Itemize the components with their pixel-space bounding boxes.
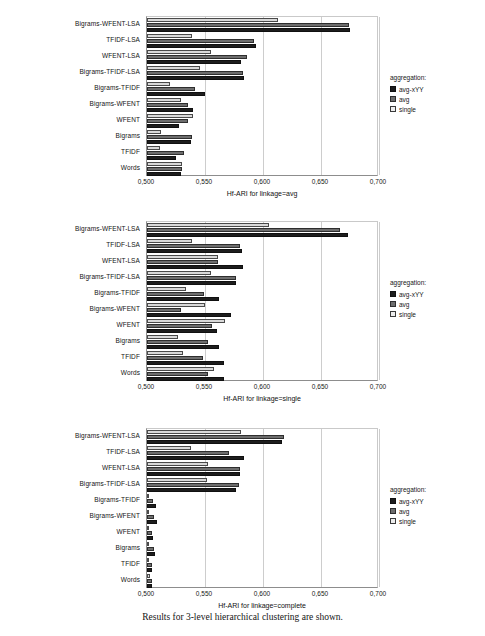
bar-group	[147, 541, 377, 557]
legend-swatch-icon	[390, 86, 396, 92]
bar-avg-xyy	[147, 249, 242, 253]
bar-avg	[147, 135, 192, 139]
bar-avg-xyy	[147, 76, 244, 80]
bar-group	[147, 17, 377, 33]
bar-avg-xyy	[147, 92, 205, 96]
category-label: Bigrams-WFENT-LSA	[6, 428, 144, 444]
plot-area	[146, 221, 378, 381]
bar-avg-xyy	[147, 361, 224, 365]
x-axis-tick: 0,700	[370, 383, 386, 390]
bar-group	[147, 222, 377, 238]
legend-item-single[interactable]: single	[390, 309, 482, 319]
category-label: WFENT-LSA	[6, 253, 144, 269]
bar-group	[147, 429, 377, 445]
category-label: Bigrams-WFENT-LSA	[6, 16, 144, 32]
legend: aggregation:avg-xYYavgsingle	[390, 486, 482, 526]
bar-single	[147, 494, 149, 498]
bar-avg	[147, 276, 236, 280]
figure-root: Bigrams-WFENT-LSATFIDF-LSAWFENT-LSABigra…	[0, 0, 485, 636]
bar-group	[147, 461, 377, 477]
legend-item-label: single	[399, 106, 416, 113]
category-label: TFIDF	[6, 144, 144, 160]
legend-item-avg-xyy[interactable]: avg-xYY	[390, 496, 482, 506]
x-axis-tick: 0,550	[196, 178, 212, 185]
bar-avg	[147, 87, 195, 91]
bar-avg-xyy	[147, 568, 152, 572]
bar-group	[147, 97, 377, 113]
legend-item-label: avg	[399, 508, 409, 515]
bar-single	[147, 574, 150, 578]
legend-item-avg[interactable]: avg	[390, 94, 482, 104]
legend-item-avg[interactable]: avg	[390, 506, 482, 516]
bar-group	[147, 493, 377, 509]
bar-avg	[147, 308, 181, 312]
legend-swatch-icon	[390, 498, 396, 504]
bar-avg	[147, 260, 218, 264]
bar-avg	[147, 340, 208, 344]
bar-avg	[147, 356, 203, 360]
bar-single	[147, 255, 218, 259]
bar-avg-xyy	[147, 28, 350, 32]
gridline	[379, 429, 380, 587]
bar-group	[147, 270, 377, 286]
category-label: Bigrams-TFIDF-LSA	[6, 269, 144, 285]
bar-single	[147, 430, 241, 434]
bar-single	[147, 98, 181, 102]
legend-item-avg-xyy[interactable]: avg-xYY	[390, 84, 482, 94]
category-label: TFIDF-LSA	[6, 32, 144, 48]
bar-avg	[147, 563, 152, 567]
bar-avg	[147, 435, 284, 439]
legend-item-avg[interactable]: avg	[390, 299, 482, 309]
bar-avg	[147, 292, 204, 296]
category-axis-labels: Bigrams-WFENT-LSATFIDF-LSAWFENT-LSABigra…	[6, 428, 144, 588]
bar-avg	[147, 515, 154, 519]
category-axis-labels: Bigrams-WFENT-LSATFIDF-LSAWFENT-LSABigra…	[6, 221, 144, 381]
bar-avg	[147, 103, 188, 107]
bar-avg	[147, 23, 349, 27]
legend-item-avg-xyy[interactable]: avg-xYY	[390, 289, 482, 299]
category-label: Bigrams-TFIDF-LSA	[6, 476, 144, 492]
bar-avg-xyy	[147, 552, 155, 556]
x-axis-title: Hf-ARI for linkage=complete	[146, 602, 378, 609]
bar-group	[147, 445, 377, 461]
category-label: Words	[6, 572, 144, 588]
bar-single	[147, 82, 170, 86]
legend-title: aggregation:	[390, 279, 482, 286]
bar-avg	[147, 244, 240, 248]
category-label: Bigrams-TFIDF	[6, 285, 144, 301]
bar-avg	[147, 71, 243, 75]
bar-single	[147, 351, 183, 355]
x-axis-tick: 0,550	[196, 590, 212, 597]
legend-swatch-icon	[390, 301, 396, 307]
category-label: Bigrams-WFENT	[6, 96, 144, 112]
legend-item-single[interactable]: single	[390, 104, 482, 114]
x-axis-tick: 0,650	[312, 590, 328, 597]
x-axis: 0,5000,5500,6000,6500,700	[146, 177, 378, 191]
bar-avg	[147, 167, 182, 171]
x-axis-tick: 0,700	[370, 590, 386, 597]
chart-panel-complete: Bigrams-WFENT-LSATFIDF-LSAWFENT-LSABigra…	[0, 412, 485, 612]
legend-title: aggregation:	[390, 486, 482, 493]
bar-group	[147, 525, 377, 541]
bar-avg-xyy	[147, 297, 219, 301]
bar-avg-xyy	[147, 172, 181, 176]
legend-item-single[interactable]: single	[390, 516, 482, 526]
category-label: Bigrams-WFENT	[6, 508, 144, 524]
bar-rows	[147, 17, 377, 177]
bar-group	[147, 254, 377, 270]
category-label: TFIDF-LSA	[6, 444, 144, 460]
x-axis-tick: 0,550	[196, 383, 212, 390]
bar-single	[147, 446, 191, 450]
bar-avg-xyy	[147, 345, 219, 349]
bar-single	[147, 542, 149, 546]
legend-item-label: avg-xYY	[399, 86, 424, 93]
bar-group	[147, 238, 377, 254]
x-axis-tick: 0,500	[138, 383, 154, 390]
bar-single	[147, 162, 182, 166]
bar-group	[147, 334, 377, 350]
category-label: Bigrams	[6, 333, 144, 349]
legend: aggregation:avg-xYYavgsingle	[390, 279, 482, 319]
bar-group	[147, 477, 377, 493]
bar-group	[147, 33, 377, 49]
bar-avg	[147, 531, 152, 535]
